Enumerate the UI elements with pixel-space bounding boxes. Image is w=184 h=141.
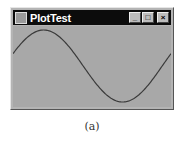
java-cup-icon[interactable]	[15, 12, 27, 24]
close-button[interactable]: ×	[157, 12, 169, 23]
maximize-button[interactable]: □	[142, 12, 154, 23]
plot-area	[13, 26, 171, 107]
window-controls: _ □ ×	[129, 12, 169, 23]
window-title: PlotTest	[30, 12, 71, 24]
sine-curve	[13, 26, 171, 107]
title-bar[interactable]: PlotTest _ □ ×	[13, 10, 171, 25]
minimize-button[interactable]: _	[129, 12, 141, 23]
plottest-window: PlotTest _ □ ×	[10, 7, 174, 110]
figure-caption: (a)	[0, 120, 184, 133]
